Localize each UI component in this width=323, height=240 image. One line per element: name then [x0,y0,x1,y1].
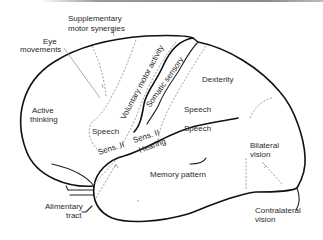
leader-lines [64,28,282,212]
label-sens-ii-left: Sens. II [97,140,126,157]
label-speech-lower: Speech [184,124,211,133]
label-bilateral-1: Bilateral [250,141,279,150]
label-speech-left: Speech [92,127,119,136]
label-dexterity: Dexterity [202,75,234,84]
label-memory-pattern: Memory pattern [150,170,206,179]
label-supplementary-2: motor synergies [68,24,125,33]
label-contralateral-1: Contralateral [255,206,301,215]
label-bilateral-2: vision [250,150,270,159]
label-speech-upper: Speech [184,105,211,114]
label-contralateral-2: vision [255,215,275,224]
brain-outline [21,35,305,221]
label-supplementary-1: Supplementary [68,14,122,23]
brain-diagram: Supplementary motor synergies Eye moveme… [0,0,323,240]
label-alimentary-2: tract [66,211,82,220]
label-active-1: Active [32,106,54,115]
label-alimentary-1: Alimentary [45,202,83,211]
label-eye-2: movements [20,45,61,54]
label-active-2: thinking [30,115,58,124]
